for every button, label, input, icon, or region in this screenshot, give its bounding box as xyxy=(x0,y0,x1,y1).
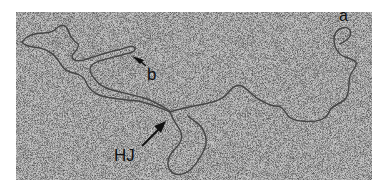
label-b: b xyxy=(147,66,156,83)
micrograph-figure: a b HJ xyxy=(0,0,383,191)
micrograph-grain xyxy=(16,12,372,180)
label-a: a xyxy=(339,8,348,24)
label-hj: HJ xyxy=(114,147,135,164)
micrograph-canvas xyxy=(0,0,383,191)
